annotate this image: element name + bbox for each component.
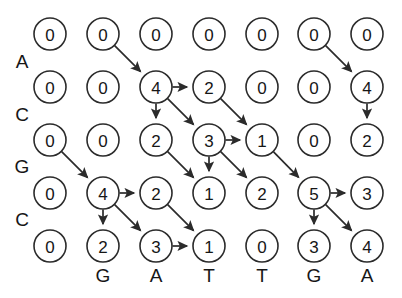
- row-sequence-label: A: [16, 51, 29, 72]
- col-sequence-label: G: [307, 265, 322, 286]
- row-sequence-label: G: [15, 156, 30, 177]
- grid-node[interactable]: 2: [351, 124, 383, 156]
- row-sequence-label: C: [15, 209, 29, 230]
- node-value-label: 3: [204, 132, 213, 151]
- edge-arrow-diagonal: [274, 152, 299, 178]
- col-sequence-label: T: [256, 265, 268, 286]
- col-sequence-label: G: [96, 265, 111, 286]
- grid-node[interactable]: 0: [351, 18, 383, 50]
- grid-node[interactable]: 0: [193, 18, 225, 50]
- node-value-label: 1: [257, 132, 266, 151]
- node-value-label: 0: [309, 26, 318, 45]
- node-value-label: 0: [309, 132, 318, 151]
- node-value-label: 0: [45, 185, 54, 204]
- nodes-layer: 00000000042004002310204212530231034: [34, 18, 383, 262]
- grid-node[interactable]: 0: [34, 18, 66, 50]
- grid-node[interactable]: 0: [140, 18, 172, 50]
- grid-node[interactable]: 0: [34, 124, 66, 156]
- grid-node[interactable]: 1: [193, 230, 225, 262]
- node-value-label: 0: [98, 132, 107, 151]
- col-labels-layer: GATTGA: [96, 265, 374, 286]
- edge-arrow-diagonal: [168, 205, 194, 231]
- node-value-label: 0: [45, 238, 54, 257]
- grid-canvas: 00000000042004002310204212530231034 ACGC…: [0, 0, 402, 298]
- node-value-label: 1: [204, 185, 213, 204]
- node-value-label: 0: [204, 26, 213, 45]
- node-value-label: 1: [204, 238, 213, 257]
- edge-arrow-diagonal: [326, 46, 352, 72]
- node-value-label: 2: [204, 79, 213, 98]
- node-value-label: 3: [309, 238, 318, 257]
- node-value-label: 0: [257, 79, 266, 98]
- grid-node[interactable]: 0: [87, 18, 119, 50]
- edge-arrow-diagonal: [62, 152, 88, 178]
- grid-node[interactable]: 0: [298, 18, 330, 50]
- grid-node[interactable]: 1: [193, 177, 225, 209]
- grid-node[interactable]: 1: [246, 124, 278, 156]
- grid-node[interactable]: 4: [351, 230, 383, 262]
- grid-node[interactable]: 4: [351, 71, 383, 103]
- grid-node[interactable]: 0: [87, 71, 119, 103]
- edge-arrow-diagonal: [115, 46, 141, 72]
- grid-node[interactable]: 5: [298, 177, 330, 209]
- grid-node[interactable]: 3: [193, 124, 225, 156]
- row-sequence-label: C: [15, 104, 29, 125]
- grid-node[interactable]: 4: [87, 177, 119, 209]
- grid-node[interactable]: 2: [87, 230, 119, 262]
- grid-node[interactable]: 3: [140, 230, 172, 262]
- grid-node[interactable]: 0: [246, 230, 278, 262]
- edge-arrow-diagonal: [221, 99, 247, 125]
- node-value-label: 2: [98, 238, 107, 257]
- node-value-label: 0: [45, 132, 54, 151]
- grid-node[interactable]: 2: [193, 71, 225, 103]
- grid-node[interactable]: 0: [34, 71, 66, 103]
- node-value-label: 4: [98, 185, 107, 204]
- node-value-label: 2: [151, 185, 160, 204]
- grid-node[interactable]: 2: [140, 124, 172, 156]
- node-value-label: 0: [257, 238, 266, 257]
- grid-node[interactable]: 4: [140, 71, 172, 103]
- grid-node[interactable]: 0: [34, 230, 66, 262]
- node-value-label: 3: [362, 185, 371, 204]
- node-value-label: 2: [151, 132, 160, 151]
- grid-node[interactable]: 2: [140, 177, 172, 209]
- node-value-label: 0: [151, 26, 160, 45]
- edge-arrow-diagonal: [115, 205, 141, 231]
- edge-arrow-diagonal: [168, 152, 194, 178]
- grid-node[interactable]: 2: [246, 177, 278, 209]
- grid-node[interactable]: 0: [34, 177, 66, 209]
- node-value-label: 0: [98, 79, 107, 98]
- node-value-label: 3: [151, 238, 160, 257]
- alignment-grid-figure: 00000000042004002310204212530231034 ACGC…: [0, 0, 402, 298]
- grid-node[interactable]: 0: [87, 124, 119, 156]
- node-value-label: 0: [98, 26, 107, 45]
- node-value-label: 4: [362, 238, 371, 257]
- edge-arrow-diagonal: [326, 205, 352, 231]
- grid-node[interactable]: 0: [246, 18, 278, 50]
- grid-node[interactable]: 0: [246, 71, 278, 103]
- node-value-label: 0: [257, 26, 266, 45]
- node-value-label: 0: [309, 79, 318, 98]
- row-labels-layer: ACGC: [15, 51, 30, 230]
- node-value-label: 4: [151, 79, 160, 98]
- edge-arrow-diagonal: [221, 152, 247, 178]
- grid-node[interactable]: 3: [351, 177, 383, 209]
- col-sequence-label: A: [361, 265, 374, 286]
- edge-arrow-diagonal: [168, 99, 194, 125]
- node-value-label: 0: [45, 26, 54, 45]
- grid-node[interactable]: 3: [298, 230, 330, 262]
- node-value-label: 0: [362, 26, 371, 45]
- grid-node[interactable]: 0: [298, 124, 330, 156]
- node-value-label: 0: [45, 79, 54, 98]
- node-value-label: 2: [257, 185, 266, 204]
- grid-node[interactable]: 0: [298, 71, 330, 103]
- node-value-label: 5: [309, 185, 318, 204]
- node-value-label: 4: [362, 79, 371, 98]
- col-sequence-label: A: [150, 265, 163, 286]
- node-value-label: 2: [362, 132, 371, 151]
- col-sequence-label: T: [203, 265, 215, 286]
